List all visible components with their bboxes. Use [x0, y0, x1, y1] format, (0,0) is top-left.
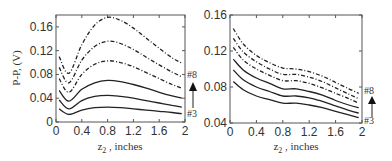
y-tick-label: 0.08 — [204, 80, 228, 94]
x-tick-label: 1.6 — [327, 125, 344, 139]
x-tick-label: 2 — [182, 124, 189, 138]
series-line-8 — [233, 29, 358, 94]
left-series-lines — [59, 17, 182, 114]
x-tick-label: 0 — [227, 125, 234, 139]
y-tick-label: 0.16 — [204, 8, 228, 22]
x-tick-label: 2 — [359, 125, 366, 139]
x-tick-label: 0.4 — [73, 124, 90, 138]
right-x-axis-label: z2 , inches — [273, 140, 318, 155]
left-chart: 00.040.080.120.16 00.40.81.21.62 P-P, (V… — [10, 15, 197, 155]
series-line-3 — [59, 107, 182, 114]
figure: 00.040.080.120.16 00.40.81.21.62 P-P, (V… — [0, 0, 392, 161]
y-tick-label: 0.04 — [204, 116, 228, 130]
series-line-5 — [59, 80, 182, 101]
x-tick-label: 0.8 — [99, 124, 116, 138]
series-line-6 — [59, 61, 182, 93]
right-chart: 0.040.080.120.16 00.40.81.21.62 z2 , inc… — [204, 8, 376, 155]
x-tick-label: 0 — [53, 124, 60, 138]
y-tick-label: 0.16 — [30, 20, 54, 34]
series-line-4 — [59, 95, 182, 109]
x-tick-label: 1.2 — [125, 124, 142, 138]
y-tick-label: 0.12 — [204, 44, 228, 58]
right-top-marker: #8 — [364, 85, 374, 96]
y-tick-label: 0.12 — [30, 44, 54, 58]
y-tick-label: 0.08 — [30, 67, 54, 81]
series-line-3 — [233, 82, 358, 118]
series-line-8 — [59, 17, 182, 73]
left-bottom-marker: #3 — [187, 108, 197, 119]
left-y-axis-label: P-P, (V) — [10, 50, 23, 86]
series-line-5 — [233, 59, 358, 108]
left-up-arrow-icon — [189, 82, 197, 108]
left-x-axis-ticks: 00.40.81.21.62 — [53, 15, 189, 138]
y-tick-label: 0.04 — [30, 91, 54, 105]
left-x-axis-label: z2 , inches — [97, 140, 142, 155]
right-up-arrow-icon — [368, 96, 376, 117]
x-tick-label: 1.2 — [301, 125, 318, 139]
right-x-axis-ticks: 00.40.81.21.62 — [227, 15, 366, 139]
left-y-axis-ticks: 00.040.080.120.16 — [30, 20, 185, 129]
x-tick-label: 0.4 — [248, 125, 265, 139]
left-top-marker: #8 — [187, 69, 197, 80]
x-tick-label: 0.8 — [274, 125, 291, 139]
right-series-lines — [233, 29, 358, 118]
x-tick-label: 1.6 — [151, 124, 168, 138]
